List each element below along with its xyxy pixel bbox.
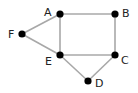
graph-diagram: ABCDEF (0, 0, 138, 93)
node-label-d: D (95, 77, 103, 90)
nodes-layer (18, 10, 118, 84)
edge-f-e (22, 34, 60, 55)
node-label-e: E (45, 55, 52, 68)
node-label-a: A (44, 6, 52, 19)
node-label-b: B (122, 7, 130, 20)
node-e (56, 51, 63, 58)
node-c (111, 51, 118, 58)
edge-a-f (22, 14, 60, 34)
node-label-c: C (121, 54, 129, 67)
edge-e-d (60, 55, 88, 81)
node-d (84, 77, 91, 84)
labels-layer: ABCDEF (8, 6, 130, 90)
node-f (18, 30, 25, 37)
node-b (111, 10, 118, 17)
node-a (56, 10, 63, 17)
node-label-f: F (8, 28, 14, 41)
edges-layer (22, 14, 115, 81)
